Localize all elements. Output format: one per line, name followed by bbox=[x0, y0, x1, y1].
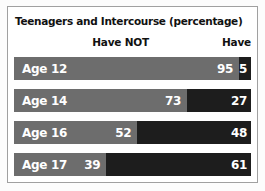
chart-panel: Teenagers and Intercourse (percentage) H… bbox=[7, 6, 258, 183]
have-not-value: 52 bbox=[115, 126, 131, 140]
have-value: 5 bbox=[239, 62, 247, 76]
bar-chart: Age 12 95 5 Age 14 73 27 Age 16 52 48 Ag… bbox=[14, 57, 251, 176]
have-not-segment: Age 17 39 bbox=[14, 153, 106, 176]
bar-row: Age 16 52 48 bbox=[14, 121, 251, 144]
bar-row: Age 12 95 5 bbox=[14, 57, 251, 80]
have-segment: 48 bbox=[137, 121, 251, 144]
age-label: Age 16 bbox=[22, 126, 67, 140]
chart-title: Teenagers and Intercourse (percentage) bbox=[15, 15, 251, 27]
have-not-segment: Age 12 95 bbox=[14, 57, 239, 80]
bar-row: Age 17 39 61 bbox=[14, 153, 251, 176]
have-not-segment: Age 14 73 bbox=[14, 89, 187, 112]
have-value: 27 bbox=[231, 94, 247, 108]
column-headers: Have NOT Have bbox=[14, 36, 251, 50]
have-not-value: 73 bbox=[165, 94, 181, 108]
have-not-segment: Age 16 52 bbox=[14, 121, 137, 144]
have-not-value: 95 bbox=[217, 62, 233, 76]
have-segment: 61 bbox=[106, 153, 251, 176]
have-segment: 5 bbox=[239, 57, 251, 80]
have-not-value: 39 bbox=[84, 158, 100, 172]
have-header: Have bbox=[222, 36, 251, 48]
age-label: Age 17 bbox=[22, 158, 67, 172]
age-label: Age 14 bbox=[22, 94, 67, 108]
bar-row: Age 14 73 27 bbox=[14, 89, 251, 112]
age-label: Age 12 bbox=[22, 62, 67, 76]
have-value: 61 bbox=[231, 158, 247, 172]
have-segment: 27 bbox=[187, 89, 251, 112]
have-not-header: Have NOT bbox=[92, 36, 149, 48]
have-value: 48 bbox=[231, 126, 247, 140]
